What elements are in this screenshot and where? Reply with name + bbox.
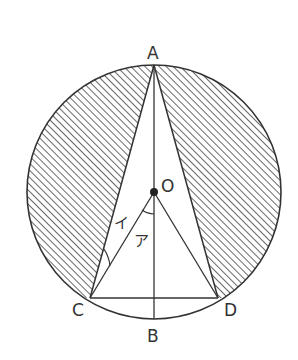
label-B: B (147, 326, 159, 346)
angle-arc-a (142, 210, 154, 214)
label-angle-i: イ (114, 214, 129, 232)
center-point-O (150, 188, 158, 196)
label-D: D (224, 300, 237, 320)
label-C: C (72, 300, 84, 320)
geometry-diagram: A O B C D ア イ (0, 0, 298, 360)
angle-arc-i (104, 249, 110, 266)
label-O: O (161, 176, 174, 196)
label-angle-a: ア (134, 232, 149, 250)
label-A: A (147, 43, 159, 63)
